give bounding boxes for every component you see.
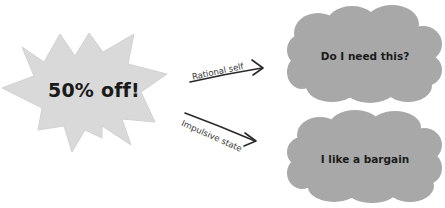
trigger-label: 50% off! <box>48 79 140 101</box>
diagram-canvas <box>0 0 445 208</box>
bargain-thought-label: I like a bargain <box>287 153 443 165</box>
need-thought-label: Do I need this? <box>287 50 443 62</box>
